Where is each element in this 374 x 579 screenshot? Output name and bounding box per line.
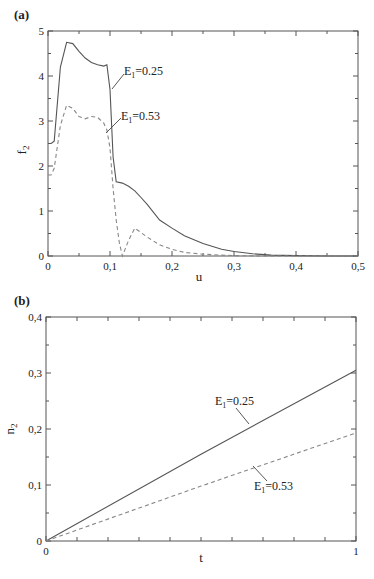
y-tick-label: 0,2 [28,423,42,435]
panel-b-x-axis-label: t [199,550,203,565]
annotation-e1-0.53: E1=0.53 [121,109,160,125]
svg-text:f2: f2 [14,146,31,155]
x-tick-label: 0,3 [227,260,241,272]
series-e1-0.53-line [48,105,358,256]
y-tick-label: 4 [39,70,45,82]
x-tick-label: 1 [353,545,359,557]
x-tick-label: 0 [45,260,51,272]
y-tick-label: 5 [39,25,45,37]
panel-a-frame [48,31,358,256]
annotation-e1-0.25: E1=0.25 [124,64,163,80]
series-e1-0.53-line [46,433,356,541]
panel-a-tick-labels: 0 1 2 3 4 5 0 0,1 0,2 0,3 0,4 0,5 [39,25,366,272]
annotation-leader-line [112,74,124,89]
panel-b-label: (b) [14,293,30,308]
x-tick-label: 0,5 [351,260,365,272]
x-tick-label: 0,4 [289,260,303,272]
svg-text:n2: n2 [2,424,19,435]
y-tick-label: 0,1 [28,479,42,491]
panel-a-label: (a) [14,7,29,22]
y-tick-label: 0,3 [28,367,42,379]
panel-b-tick-labels: 0 0,1 0,2 0,3 0,4 0 1 [28,311,359,557]
panel-b-y-axis-label: n2 [2,424,19,435]
y-tick-label: 0 [39,250,45,262]
panel-b-ticks [46,317,356,541]
y-tick-label: 0,4 [28,311,42,323]
annotation-leader-line [106,118,121,133]
x-tick-label: 0 [43,545,49,557]
y-tick-label: 0 [37,535,43,547]
series-e1-0.25-line [46,370,356,541]
y-tick-label: 3 [39,115,45,127]
x-tick-label: 0,1 [103,260,117,272]
panel-b: (b) 0 0,1 0,2 0,3 0,4 0 1 t n2 E1=0.25 E… [2,293,359,565]
panel-a: (a) 0 1 2 3 4 5 0 0,1 0,2 0,3 0,4 0,5 u … [14,7,365,284]
y-tick-label: 2 [39,160,45,172]
series-e1-0.25-line [48,42,358,256]
panel-a-x-axis-label: u [196,269,203,284]
panel-a-y-axis-label: f2 [14,146,31,155]
panel-b-frame [46,317,356,541]
panel-a-ticks [48,31,358,256]
annotation-e1-0.53: E1=0.53 [254,479,293,495]
annotation-e1-0.25: E1=0.25 [215,394,254,410]
x-tick-label: 0,2 [165,260,179,272]
annotation-leader-line [236,408,249,424]
figure: (a) 0 1 2 3 4 5 0 0,1 0,2 0,3 0,4 0,5 u … [0,0,374,579]
y-tick-label: 1 [39,205,45,217]
